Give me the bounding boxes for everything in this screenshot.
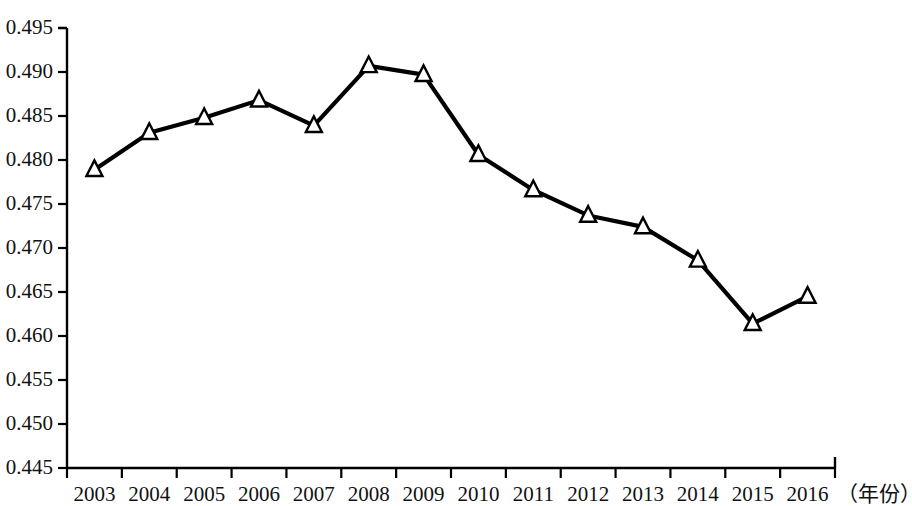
y-axis-tick-label: 0.460: [0, 325, 53, 346]
y-axis-tick-label: 0.485: [0, 105, 53, 126]
x-axis-title: （年份）: [837, 484, 912, 505]
data-series-markers: [86, 57, 815, 330]
y-axis-tick-label: 0.495: [0, 17, 53, 38]
y-axis-tick-label: 0.490: [0, 61, 53, 82]
y-axis-tick-label: 0.445: [0, 457, 53, 478]
y-axis-tick-label: 0.480: [0, 149, 53, 170]
y-axis-tick-label: 0.465: [0, 281, 53, 302]
x-axis-tick-label: 2016: [773, 484, 843, 505]
y-axis-tick-label: 0.470: [0, 237, 53, 258]
chart-axes: [58, 28, 835, 468]
y-axis-tick-label: 0.450: [0, 413, 53, 434]
y-axis-tick-label: 0.475: [0, 193, 53, 214]
data-series-line: [94, 66, 807, 324]
y-axis-tick-label: 0.455: [0, 369, 53, 390]
chart-tick-marks: [58, 28, 835, 478]
